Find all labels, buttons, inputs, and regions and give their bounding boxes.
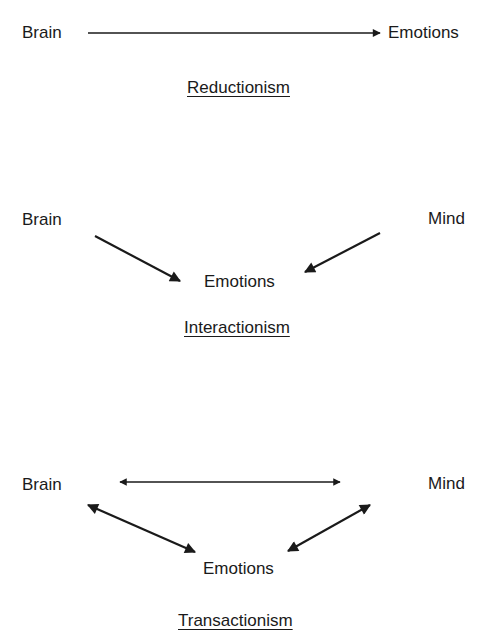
diagram-title: Interactionism xyxy=(184,318,290,338)
diagram-title: Reductionism xyxy=(187,78,290,98)
node-brain: Brain xyxy=(22,475,62,495)
double-arrow-mind-emotions xyxy=(288,505,370,551)
node-brain: Brain xyxy=(22,210,62,230)
arrow-mind-to-emotions xyxy=(305,233,380,272)
node-mind: Mind xyxy=(428,209,465,229)
node-emotions: Emotions xyxy=(204,272,275,292)
node-mind: Mind xyxy=(428,474,465,494)
node-emotions: Emotions xyxy=(203,559,274,579)
diagram-title: Transactionism xyxy=(178,611,293,631)
node-brain: Brain xyxy=(22,23,62,43)
node-emotions: Emotions xyxy=(388,23,459,43)
arrow-brain-to-emotions xyxy=(95,236,180,281)
double-arrow-brain-emotions xyxy=(88,505,195,552)
